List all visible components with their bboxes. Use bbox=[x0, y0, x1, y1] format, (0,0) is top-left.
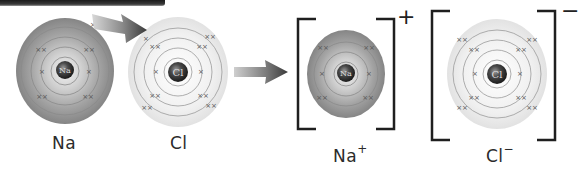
svg-text:××: ×× bbox=[204, 33, 216, 41]
cl-ion-superscript: − bbox=[504, 142, 515, 156]
svg-text:×: × bbox=[143, 35, 149, 43]
svg-text:×: × bbox=[198, 68, 204, 76]
na-ion: ×× ×××× ×××× Na bbox=[298, 19, 394, 129]
svg-text:×: × bbox=[517, 70, 523, 78]
svg-text:××: ×× bbox=[456, 36, 468, 44]
na-ion-label: Na+ bbox=[333, 144, 368, 166]
svg-text:Cl: Cl bbox=[492, 69, 503, 80]
svg-text:××: ×× bbox=[468, 94, 480, 102]
svg-text:××: ×× bbox=[526, 36, 538, 44]
na-ion-charge: + bbox=[397, 6, 415, 28]
svg-text:××: ×× bbox=[82, 93, 94, 101]
svg-text:××: ×× bbox=[141, 104, 153, 112]
cl-ion-symbol: Cl bbox=[486, 146, 504, 166]
svg-text:××: ×× bbox=[36, 93, 48, 101]
svg-text:××: ×× bbox=[363, 44, 375, 52]
svg-text:×: × bbox=[39, 68, 45, 76]
reaction-arrow bbox=[234, 60, 288, 84]
svg-text:××: ×× bbox=[526, 104, 538, 112]
cl-ion: ×× ×××× ×××× ×××× ×××× Cl bbox=[432, 11, 555, 140]
svg-text:××: ×× bbox=[149, 92, 161, 100]
svg-text:××: ×× bbox=[205, 102, 217, 110]
na-ion-superscript: + bbox=[357, 142, 368, 156]
cl-atom-label: Cl bbox=[170, 133, 188, 153]
svg-text:××: ×× bbox=[83, 46, 95, 54]
svg-text:××: ×× bbox=[316, 94, 328, 102]
svg-text:Na: Na bbox=[340, 69, 352, 78]
svg-text:×: × bbox=[153, 68, 159, 76]
svg-text:××: ×× bbox=[317, 44, 329, 52]
svg-text:××: ×× bbox=[515, 94, 527, 102]
svg-text:××: ×× bbox=[456, 104, 468, 112]
svg-text:Cl: Cl bbox=[173, 67, 184, 78]
svg-text:×: × bbox=[86, 68, 92, 76]
na-atom: ×× ×××× ×××× × Na bbox=[16, 18, 114, 124]
svg-text:×: × bbox=[366, 70, 372, 78]
svg-text:Na: Na bbox=[59, 66, 71, 75]
svg-text:×: × bbox=[319, 70, 325, 78]
na-atom-label: Na bbox=[52, 133, 76, 153]
svg-text:××: ×× bbox=[196, 43, 208, 51]
svg-text:××: ×× bbox=[197, 92, 209, 100]
cl-ion-charge: − bbox=[561, 0, 579, 22]
svg-text:×: × bbox=[472, 70, 478, 78]
svg-text:××: ×× bbox=[35, 46, 47, 54]
svg-text:××: ×× bbox=[362, 94, 374, 102]
svg-text:××: ×× bbox=[468, 46, 480, 54]
cl-atom: ×× ×××× ×××× ××× ×××× Cl bbox=[128, 17, 228, 127]
svg-text:××: ×× bbox=[149, 43, 161, 51]
na-ion-symbol: Na bbox=[333, 146, 357, 166]
svg-text:××: ×× bbox=[515, 46, 527, 54]
cl-ion-label: Cl− bbox=[486, 144, 514, 166]
